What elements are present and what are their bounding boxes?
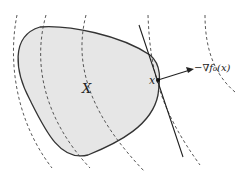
arrowhead-icon xyxy=(186,67,194,73)
point-label: x xyxy=(149,74,155,87)
diagram-canvas xyxy=(0,0,243,180)
point-x-dot xyxy=(156,78,160,82)
gradient-arrow xyxy=(158,70,190,80)
gradient-label: −∇f₀(x) xyxy=(194,62,231,73)
diagram: X x −∇f₀(x) xyxy=(0,0,243,180)
set-label: X xyxy=(82,81,91,96)
